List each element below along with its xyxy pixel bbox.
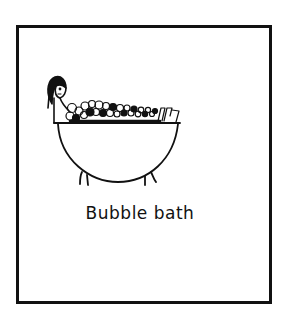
caption-text: Bubble bath [70, 203, 210, 223]
bubbles-icon [66, 101, 179, 123]
bubble-bath-illustration [0, 0, 285, 322]
person-icon [48, 77, 70, 123]
bathtub-icon [54, 123, 180, 185]
